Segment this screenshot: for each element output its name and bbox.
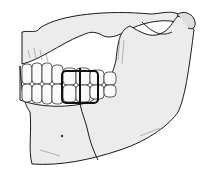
upper-teeth	[22, 63, 116, 85]
jaw-illustration	[0, 0, 206, 176]
mental-foramen	[61, 135, 63, 137]
